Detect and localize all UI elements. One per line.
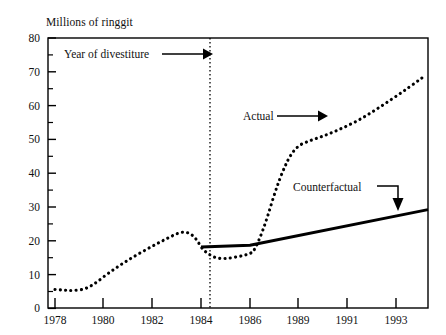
- arrow-counterfactual: [377, 186, 404, 211]
- arrow-actual: [277, 111, 328, 122]
- x-axis-ticks: [55, 298, 396, 308]
- chart-figure: Millions of ringgit 80 70 60 50 40 30 20…: [0, 0, 446, 335]
- chart-canvas: [0, 0, 446, 335]
- series-actual-line: [55, 77, 424, 291]
- series-counterfactual-line: [201, 210, 428, 247]
- arrow-year-of-divestiture: [162, 49, 213, 60]
- plot-frame: [48, 38, 428, 308]
- y-axis-major-ticks: [48, 38, 56, 308]
